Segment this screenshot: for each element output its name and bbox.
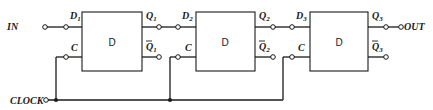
ff1-c-label: C xyxy=(71,42,78,53)
flipflop-3: D D3 C Q3 Q3 xyxy=(283,10,388,100)
ff3-q-label: Q3 xyxy=(372,10,383,23)
ff2-qbar-terminal xyxy=(271,55,276,60)
ff2-c-terminal xyxy=(176,55,181,60)
ff2-q-terminal xyxy=(271,25,276,30)
ff2-d-terminal xyxy=(176,25,181,30)
in-terminal xyxy=(43,25,48,30)
ff1-q-label: Q1 xyxy=(146,10,157,23)
ff1-qbar-terminal xyxy=(157,55,162,60)
clock-junction-2 xyxy=(168,98,172,102)
ff3-c-label: C xyxy=(298,42,305,53)
ff3-d-terminal xyxy=(290,25,295,30)
ff2-c-label: C xyxy=(185,42,192,53)
ff1-qbar-label: Q1 xyxy=(146,41,157,54)
ff2-q-label: Q2 xyxy=(259,10,270,23)
ff1-label: D xyxy=(108,37,115,48)
ff2-d-label: D2 xyxy=(181,10,193,23)
ff1-c-terminal xyxy=(64,55,69,60)
ff3-q-terminal xyxy=(384,25,389,30)
ff1-d-terminal xyxy=(64,25,69,30)
ff3-qbar-label: Q3 xyxy=(372,41,383,54)
out-terminal xyxy=(399,25,404,30)
ff3-c-terminal xyxy=(290,55,295,60)
in-label: IN xyxy=(6,21,19,32)
clock-label: CLOCK xyxy=(10,95,45,106)
shift-register-diagram: IN D D1 C Q1 Q1 D D2 C xyxy=(0,0,433,110)
ff3-label: D xyxy=(335,37,342,48)
ff1-d-label: D1 xyxy=(69,10,81,23)
ff3-d-label: D3 xyxy=(295,10,307,23)
flipflop-1: D D1 C Q1 Q1 xyxy=(56,10,161,100)
ff2-qbar-label: Q2 xyxy=(259,41,270,54)
clock-junction-1 xyxy=(54,98,58,102)
flipflop-2: D D2 C Q2 Q2 xyxy=(170,10,275,100)
ff3-qbar-terminal xyxy=(384,55,389,60)
clock-terminal xyxy=(44,98,49,103)
ff2-label: D xyxy=(221,37,228,48)
out-label: OUT xyxy=(404,21,425,32)
ff1-q-terminal xyxy=(157,25,162,30)
